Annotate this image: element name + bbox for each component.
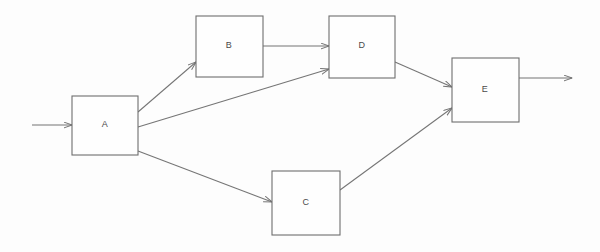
node-d[interactable]: D [329,16,395,78]
node-c[interactable]: C [272,171,340,235]
edge-A-to-B [138,62,196,112]
edge-A-to-C [138,151,272,202]
flowchart-canvas: ABCDE [0,0,600,252]
node-label-b: B [226,40,232,50]
nodes-layer: ABCDE [72,16,519,235]
node-label-d: D [359,40,366,50]
edge-A-to-D [138,69,329,127]
node-label-e: E [482,84,488,94]
edge-D-to-E [395,62,452,87]
node-e[interactable]: E [452,58,519,122]
node-label-c: C [303,197,310,207]
node-b[interactable]: B [196,16,263,77]
node-a[interactable]: A [72,96,138,155]
node-label-a: A [102,119,108,129]
flowchart-diagram: ABCDE [0,0,600,252]
edge-C-to-E [340,108,452,190]
